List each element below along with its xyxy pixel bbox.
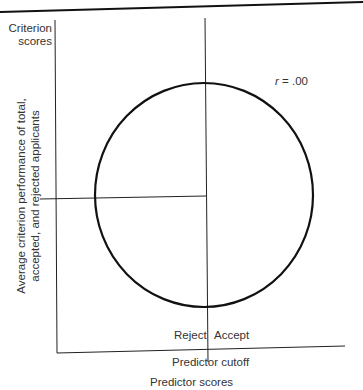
top-border-rule	[0, 2, 363, 12]
y-axis-title-line2: scores	[0, 35, 52, 48]
y-axis-title: Criterion scores	[0, 22, 52, 48]
y-axis-label-line1: Average criterion performance of total,	[14, 98, 28, 293]
y-axis-label-line2: accepted, and rejected applicants	[28, 98, 42, 293]
reject-region-label: Reject	[174, 329, 207, 342]
average-criterion-line	[40, 196, 206, 199]
accept-region-label: Accept	[214, 329, 249, 342]
y-axis-title-line1: Criterion	[0, 22, 52, 35]
x-axis	[57, 346, 345, 353]
predictor-cutoff-label: Predictor cutoff	[172, 356, 249, 369]
correlation-value: = .00	[282, 75, 308, 87]
correlation-symbol: r	[275, 75, 279, 87]
predictor-cutoff-line	[205, 18, 208, 362]
y-axis	[55, 20, 57, 353]
correlation-label: r = .00	[275, 75, 308, 88]
scatter-envelope-circle	[95, 83, 313, 307]
x-axis-title: Predictor scores	[150, 376, 233, 389]
y-axis-label: Average criterion performance of total, …	[14, 98, 42, 293]
